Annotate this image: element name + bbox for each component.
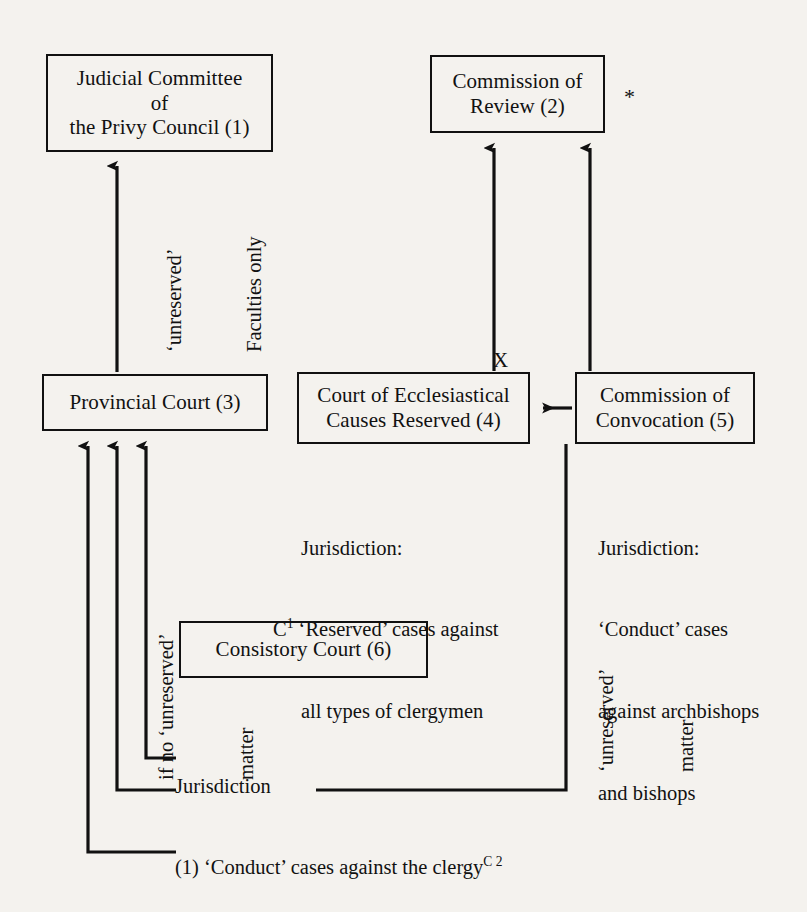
box-line: Causes Reserved (4) <box>326 408 501 433</box>
legend-item-superscript: C 2 <box>483 854 502 869</box>
box-line: Court of Ecclesiastical <box>317 383 509 408</box>
annotation-heading: Jurisdiction: <box>598 535 759 562</box>
edge-label-line: ‘unreserved’ <box>593 668 620 772</box>
box-line: of <box>151 91 169 116</box>
box-court-of-ecclesiastical-causes-reserved[interactable]: Court of Ecclesiastical Causes Reserved … <box>297 372 530 444</box>
annotation-text: ‘Reserved’ cases against <box>299 618 499 640</box>
x-marker: X <box>493 347 508 375</box>
annotation-heading: Jurisdiction: <box>301 535 499 562</box>
edge-label-line: matter <box>673 668 700 772</box>
box-line: Commission of <box>452 69 582 94</box>
asterisk-marker: * <box>624 82 635 111</box>
box-line: Provincial Court (3) <box>69 390 240 415</box>
box-provincial-court[interactable]: Provincial Court (3) <box>42 374 268 431</box>
box-commission-of-convocation[interactable]: Commission of Convocation (5) <box>575 372 755 444</box>
legend-item: (1) ‘Conduct’ cases against the clergyC … <box>175 854 503 881</box>
legend-item-number: (1) <box>175 856 199 878</box>
box-line: Commission of <box>600 383 730 408</box>
diagram-canvas: Judicial Committee of the Privy Council … <box>0 0 807 912</box>
box-commission-of-review[interactable]: Commission of Review (2) <box>430 55 605 133</box>
legend-heading: Jurisdiction <box>175 773 503 800</box>
annotation-line: ‘Conduct’ cases <box>598 616 759 643</box>
box-line: the Privy Council (1) <box>70 115 250 140</box>
annotation-marker-superscript: 1 <box>287 616 294 631</box>
box-judicial-committee-privy-council[interactable]: Judicial Committee of the Privy Council … <box>46 54 273 152</box>
legend-jurisdiction: Jurisdiction (1) ‘Conduct’ cases against… <box>175 718 503 912</box>
box-line: Judicial Committee <box>77 66 243 91</box>
box-line: Review (2) <box>470 94 565 119</box>
edge-label-line: ‘unreserved’ <box>161 236 188 352</box>
edge-label-unreserved-matter: ‘unreserved’ matter <box>540 668 753 772</box>
box-line: Convocation (5) <box>596 408 735 433</box>
edge-label-faculties-only: ‘unreserved’ Faculties only <box>108 236 321 352</box>
edge-label-line: Faculties only <box>241 236 268 352</box>
annotation-line: and bishops <box>598 780 759 807</box>
legend-item-text: ‘Conduct’ cases against the clergy <box>204 856 483 878</box>
